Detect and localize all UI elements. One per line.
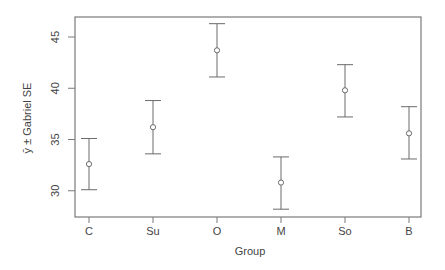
mean-point [150, 125, 155, 130]
x-tick-label: B [405, 225, 412, 237]
x-axis-title: Group [235, 245, 266, 257]
errorbar-m [273, 157, 289, 209]
mean-point [86, 162, 91, 167]
y-axis-title: ȳ ± Gabriel SE [21, 83, 33, 154]
x-tick-label: Su [146, 225, 159, 237]
mean-point [406, 131, 411, 136]
mean-point [342, 88, 347, 93]
plot-border [75, 17, 421, 217]
x-axis: CSuOMSoB [85, 217, 413, 237]
errorbar-su [145, 101, 161, 154]
errorbar-b [401, 107, 417, 159]
y-tick-label: 40 [49, 82, 61, 94]
y-tick-label: 35 [49, 133, 61, 145]
plot-frame [75, 17, 421, 217]
mean-point [214, 48, 219, 53]
errorbar-c [81, 138, 97, 189]
error-bars [81, 24, 417, 210]
x-tick-label: M [276, 225, 285, 237]
x-tick-label: So [338, 225, 351, 237]
y-tick-label: 30 [49, 185, 61, 197]
y-tick-label: 45 [49, 31, 61, 43]
errorbar-chart: 30354045 CSuOMSoB Group ȳ ± Gabriel SE [0, 0, 445, 270]
errorbar-so [337, 65, 353, 117]
x-tick-label: O [213, 225, 222, 237]
errorbar-o [209, 24, 225, 77]
mean-point [278, 180, 283, 185]
x-tick-label: C [85, 225, 93, 237]
y-axis: 30354045 [49, 31, 75, 197]
